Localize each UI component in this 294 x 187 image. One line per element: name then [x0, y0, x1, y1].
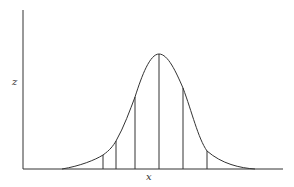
y-axis-label: z — [12, 76, 17, 87]
x-axis-label: x — [146, 171, 152, 182]
distribution-diagram — [0, 0, 294, 187]
